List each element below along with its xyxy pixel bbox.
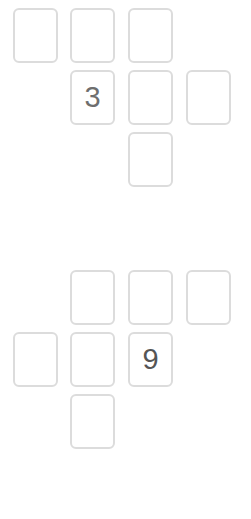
puzzle-cell[interactable] [128,8,173,63]
puzzle-cell[interactable] [70,394,115,449]
puzzle-cell[interactable] [186,270,231,325]
puzzle-cell-value [188,72,229,123]
puzzle-cell[interactable] [186,70,231,125]
puzzle-cell-value: 9 [130,334,171,385]
puzzle-cell-value: 3 [72,72,113,123]
puzzle-cell[interactable] [70,332,115,387]
upper-row-3 [0,132,251,194]
upper-word-cluster: 3 [0,8,251,194]
puzzle-cell-value [130,272,171,323]
puzzle-cell-value [15,334,56,385]
puzzle-cell-value [130,134,171,185]
lower-row-2: 9 [0,332,251,394]
puzzle-cell-value [72,334,113,385]
puzzle-cell-value [130,10,171,61]
upper-row-2: 3 [0,70,251,132]
puzzle-cell[interactable]: 9 [128,332,173,387]
lower-row-1 [0,270,251,332]
lower-word-cluster: 9 [0,270,251,456]
upper-row-1 [0,8,251,70]
puzzle-cell-value [15,10,56,61]
lower-row-3 [0,394,251,456]
puzzle-cell-value [72,10,113,61]
puzzle-cell-value [188,272,229,323]
puzzle-cell[interactable] [13,8,58,63]
puzzle-cell-value [72,272,113,323]
puzzle-cell[interactable] [70,270,115,325]
puzzle-cell[interactable] [128,270,173,325]
puzzle-cell[interactable]: 3 [70,70,115,125]
puzzle-cell[interactable] [70,8,115,63]
puzzle-cell[interactable] [13,332,58,387]
puzzle-cell[interactable] [128,132,173,187]
puzzle-board: 39 [0,0,251,519]
puzzle-cell-value [130,72,171,123]
puzzle-cell[interactable] [128,70,173,125]
puzzle-cell-value [72,396,113,447]
